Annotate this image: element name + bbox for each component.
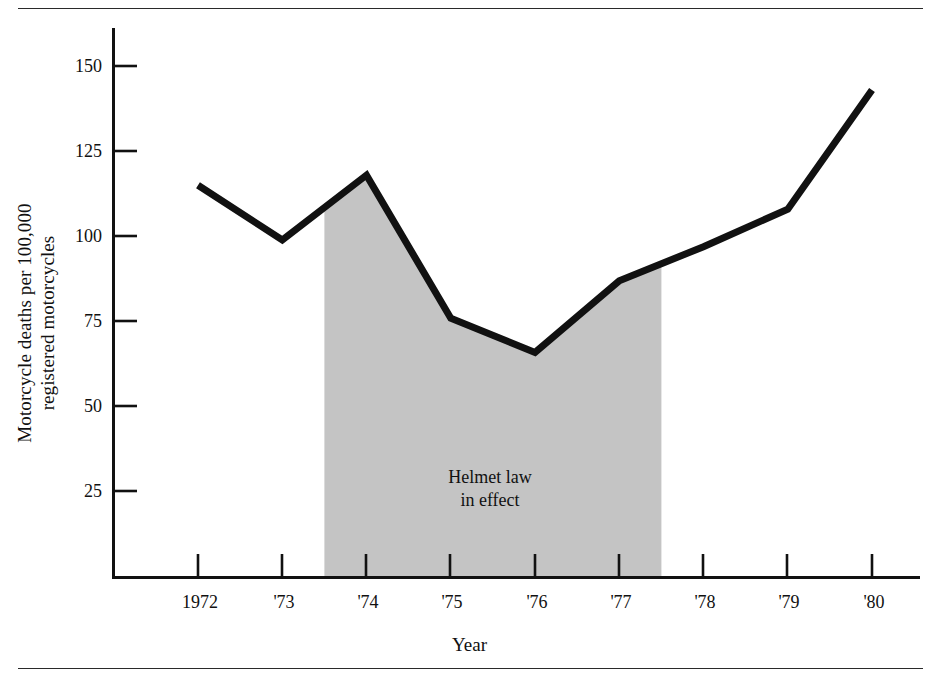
x-tick-label-1973: '73 bbox=[273, 592, 294, 613]
y-tick-label-100: 100 bbox=[52, 226, 102, 247]
x-axis-title: Year bbox=[0, 634, 939, 656]
y-tick-label-25: 25 bbox=[52, 481, 102, 502]
x-tick-label-1977: '77 bbox=[610, 592, 631, 613]
y-axis-ticks bbox=[115, 66, 137, 491]
x-tick-label-1980: '80 bbox=[863, 592, 884, 613]
y-tick-label-75: 75 bbox=[52, 311, 102, 332]
x-tick-label-1974: '74 bbox=[357, 592, 378, 613]
x-tick-label-1978: '78 bbox=[694, 592, 715, 613]
figure-container: 150 125 100 75 50 25 1972 '73 '74 '75 '7… bbox=[0, 0, 939, 685]
data-series-line bbox=[198, 90, 872, 353]
y-tick-label-50: 50 bbox=[52, 396, 102, 417]
y-tick-label-150: 150 bbox=[52, 56, 102, 77]
x-tick-label-1972: 1972 bbox=[182, 592, 218, 613]
x-tick-label-1976: '76 bbox=[526, 592, 547, 613]
x-tick-label-1979: '79 bbox=[778, 592, 799, 613]
x-axis-ticks bbox=[198, 554, 872, 576]
x-tick-label-1975: '75 bbox=[441, 592, 462, 613]
helmet-law-annotation: Helmet law in effect bbox=[448, 466, 531, 511]
y-tick-label-125: 125 bbox=[52, 141, 102, 162]
chart-plot-area bbox=[0, 0, 939, 685]
